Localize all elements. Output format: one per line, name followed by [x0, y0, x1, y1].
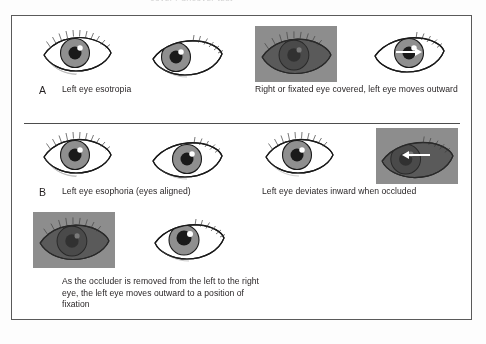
cut-off-title-fragment: cover / uncover test: [150, 0, 350, 7]
eye-right-eye-straight: [40, 28, 114, 76]
panel-letter-b: B: [39, 186, 46, 198]
eye-right-eye-aligned: [40, 130, 114, 178]
eye-left-eye-occluded: [36, 215, 112, 265]
caption-b-left: Left eye esophoria (eyes aligned): [62, 186, 262, 198]
panel-letter-a: A: [39, 84, 46, 96]
caption-a-left: Left eye esotropia: [62, 84, 242, 96]
eye-right-eye-occluded: [258, 29, 334, 79]
caption-bottom: As the occluder is removed from the left…: [62, 276, 272, 311]
caption-a-right: Right or fixated eye covered, left eye m…: [255, 84, 460, 96]
eye-right-eye-uncovered-fixating: [152, 214, 226, 262]
figure-cover-uncover-test: cover / uncover test A: [0, 0, 486, 344]
panel-divider: [24, 123, 460, 124]
eye-left-eye-esotropic: [150, 30, 224, 78]
arrow-outward-movement: [396, 51, 416, 53]
arrow-inward-deviation: [408, 154, 430, 156]
occluder-box-right-eye: [255, 26, 337, 82]
eye-right-eye-fixating: [262, 130, 336, 178]
eye-left-eye-deviates-inward: [379, 131, 455, 181]
eye-left-eye-aligned: [150, 132, 224, 180]
occluder-box-left-eye: [376, 128, 458, 184]
eye-left-eye-moves-outward: [372, 28, 446, 76]
caption-b-right: Left eye deviates inward when occluded: [262, 186, 472, 198]
occluder-box-bottom-left-eye: [33, 212, 115, 268]
